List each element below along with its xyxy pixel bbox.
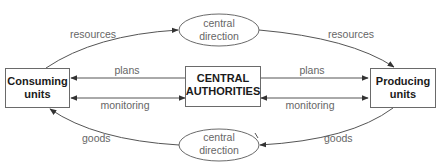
goods-tick-mark: [255, 133, 258, 138]
central-direction-bottom-node: central direction: [179, 129, 259, 161]
monitoring-label-left: monitoring: [100, 99, 149, 111]
consuming-units-node: Consuming units: [6, 69, 70, 108]
command-economy-diagram: central direction central direction reso…: [0, 0, 438, 168]
goods-label-right: goods: [324, 132, 353, 144]
central-direction-top-line1: central: [203, 17, 235, 29]
resources-label-right: resources: [328, 28, 374, 40]
producing-units-node: Producing units: [371, 69, 436, 108]
plans-label-right: plans: [299, 64, 324, 76]
central-authorities-node: CENTRAL AUTHORITIES: [186, 67, 261, 107]
producing-units-line1: Producing: [376, 75, 430, 87]
resources-label-left: resources: [70, 28, 116, 40]
consuming-units-line2: units: [24, 88, 50, 100]
monitoring-label-right: monitoring: [285, 99, 334, 111]
central-authorities-line2: AUTHORITIES: [186, 85, 261, 97]
central-authorities-line1: CENTRAL: [197, 72, 250, 84]
plans-label-left: plans: [114, 64, 139, 76]
central-direction-bottom-line1: central: [203, 131, 235, 143]
central-direction-top-node: central direction: [179, 14, 259, 46]
central-direction-bottom-line2: direction: [199, 144, 239, 156]
central-direction-top-line2: direction: [199, 30, 239, 42]
goods-arrow-left: [50, 109, 179, 145]
goods-label-left: goods: [82, 132, 111, 144]
consuming-units-line1: Consuming: [7, 75, 68, 87]
producing-units-line2: units: [390, 88, 416, 100]
